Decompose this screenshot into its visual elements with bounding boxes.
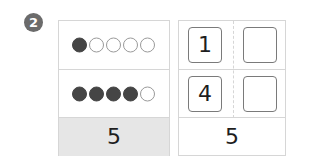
filled-dot: [106, 86, 121, 101]
dot-group: [72, 86, 155, 101]
problem-number-badge: 2: [24, 13, 43, 32]
dot-total-row: 5: [59, 118, 169, 156]
number-box-filled: 1: [188, 27, 222, 63]
filled-dot: [72, 38, 87, 53]
filled-dot: [123, 86, 138, 101]
answer-box-empty[interactable]: [243, 27, 277, 63]
number-total-row: 5: [179, 118, 285, 156]
empty-dot: [106, 38, 121, 53]
empty-dot: [123, 38, 138, 53]
empty-dot: [140, 86, 155, 101]
number-box-filled: 4: [188, 76, 222, 112]
column-divider: [233, 21, 234, 118]
dot-group: [72, 38, 155, 53]
number-panel: 1 4 5: [178, 20, 286, 156]
number-total-value: 5: [179, 118, 285, 156]
filled-dot: [89, 86, 104, 101]
answer-box-empty[interactable]: [243, 76, 277, 112]
dot-total-value: 5: [59, 118, 169, 156]
dot-row-2: [59, 70, 169, 118]
dot-row-1: [59, 21, 169, 70]
empty-dot: [140, 38, 155, 53]
filled-dot: [72, 86, 87, 101]
dot-panel: 5: [58, 20, 170, 156]
empty-dot: [89, 38, 104, 53]
